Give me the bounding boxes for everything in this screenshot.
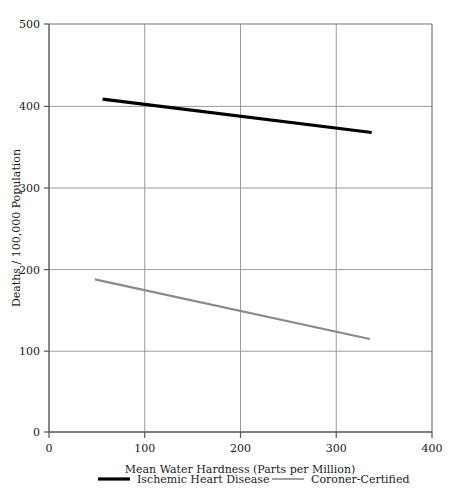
legend-label-coroner-certified: Coroner-Certified [311,473,410,486]
chart-legend: Ischemic Heart Disease Coroner-Certified [98,473,410,486]
x-tick-label-0: 0 [46,442,53,455]
x-tick-label-300: 300 [326,442,347,455]
y-tick-label-400: 400 [19,100,40,113]
y-axis-title: Deaths / 100,000 Population [10,149,23,307]
chart-figure: 500 400 300 200 100 0 0 100 200 300 400 … [0,0,451,501]
x-tick-label-200: 200 [230,442,251,455]
y-tick-label-0: 0 [33,426,40,439]
legend-label-ischemic-heart-disease: Ischemic Heart Disease [137,473,269,486]
y-tick-label-100: 100 [19,345,40,358]
line-chart-svg: 500 400 300 200 100 0 0 100 200 300 400 … [0,0,451,501]
x-tick-label-400: 400 [422,442,443,455]
chart-background [0,0,451,501]
x-tick-label-100: 100 [134,442,155,455]
y-tick-label-500: 500 [19,18,40,31]
